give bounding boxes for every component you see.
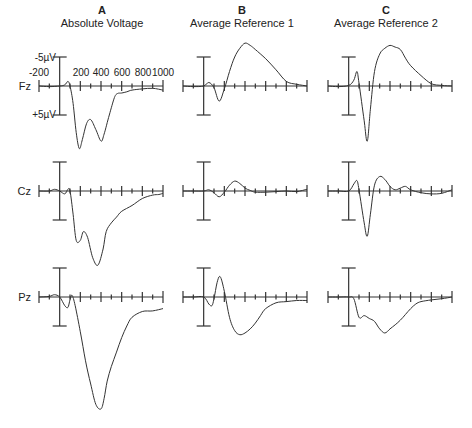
x-tick-label-200: 200 xyxy=(73,67,90,78)
erp-waveform xyxy=(39,295,163,410)
panel-c-cz xyxy=(328,162,452,236)
erp-figure: A Absolute Voltage B Average Reference 1… xyxy=(0,0,472,428)
erp-waveform xyxy=(328,45,452,141)
column-title-b: Average Reference 1 xyxy=(190,17,294,29)
panel-c-fz xyxy=(328,45,452,141)
x-tick-label-600: 600 xyxy=(114,67,131,78)
x-tick-label-neg200: -200 xyxy=(29,67,49,78)
column-letter-b: B xyxy=(238,4,246,16)
panel-b-fz xyxy=(183,43,307,115)
x-tick-label-800: 800 xyxy=(135,67,152,78)
column-letter-c: C xyxy=(382,4,390,16)
erp-waveform xyxy=(183,43,307,101)
panel-b-pz xyxy=(183,268,307,335)
erp-waveform xyxy=(328,297,452,333)
erp-waveform xyxy=(39,188,163,265)
column-title-a: Absolute Voltage xyxy=(61,17,144,29)
electrode-label-cz: Cz xyxy=(18,185,31,197)
panel-c-pz xyxy=(328,268,452,333)
column-title-c: Average Reference 2 xyxy=(334,17,438,29)
electrode-label-fz: Fz xyxy=(19,80,31,92)
erp-waveform xyxy=(328,176,452,236)
panel-b-cz xyxy=(183,162,307,220)
x-tick-label-1000: 1000 xyxy=(152,67,175,78)
panel-grid xyxy=(39,43,452,409)
panel-a-cz xyxy=(39,162,163,265)
x-tick-label-400: 400 xyxy=(93,67,110,78)
panel-a-pz xyxy=(39,268,163,409)
electrode-label-pz: Pz xyxy=(18,291,31,303)
column-letter-a: A xyxy=(98,4,106,16)
